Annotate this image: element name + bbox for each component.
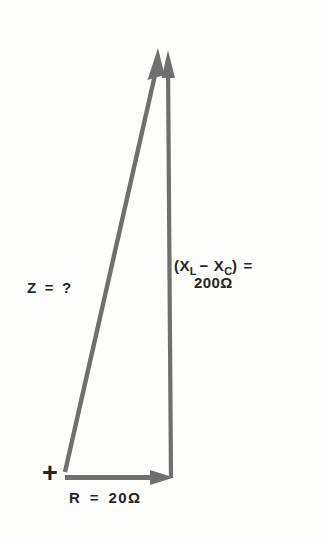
reactance-magnitude-row: 200Ω	[194, 275, 253, 290]
resistance-label: R = 20Ω	[69, 489, 142, 506]
reactance-minus-sign: −	[200, 257, 209, 274]
reactance-magnitude: 200	[194, 274, 220, 291]
resistance-ohm-unit: Ω	[128, 489, 141, 506]
reactance-x-symbol: X	[214, 257, 224, 274]
phasor-diagram-page: + Z = ? (XL−XC)= 200Ω R = 20Ω	[0, 0, 325, 540]
origin-plus-marker: +	[42, 460, 58, 487]
reactance-vector-line	[168, 62, 171, 478]
resistance-equals: =	[90, 489, 100, 506]
reactance-ohm-unit: Ω	[220, 274, 232, 291]
impedance-label: Z = ?	[27, 279, 73, 296]
impedance-value: ?	[62, 279, 73, 296]
reactance-vector	[162, 50, 176, 478]
resistance-symbol: R	[69, 489, 81, 506]
impedance-equals: =	[45, 279, 56, 296]
reactance-open-paren: (X	[174, 257, 190, 274]
impedance-vector-line	[65, 66, 157, 472]
reactance-label: (XL−XC)= 200Ω	[174, 258, 253, 290]
reactance-close-paren: )	[232, 257, 237, 274]
impedance-symbol: Z	[27, 279, 38, 296]
impedance-arrowhead-icon	[148, 48, 165, 80]
resistance-vector	[65, 470, 174, 485]
reactance-equals: =	[243, 257, 252, 274]
resistance-value: 20	[109, 489, 129, 506]
impedance-vector	[65, 48, 165, 472]
